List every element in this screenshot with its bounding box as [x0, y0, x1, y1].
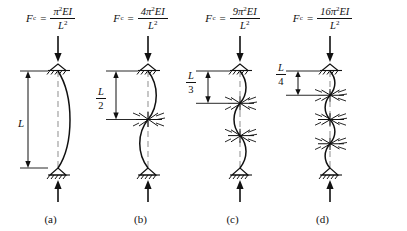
intermediate-brace-c-2 — [225, 129, 257, 143]
intermediate-brace-d-3 — [315, 138, 347, 151]
dimension-denominator-b: 2 — [96, 99, 105, 111]
ei-term-b: EI — [155, 6, 165, 17]
length-exponent-b: 2 — [154, 19, 158, 27]
reaction-arrow-bottom-a — [54, 180, 61, 202]
formula-fraction-d: 16π2EI L2 — [317, 6, 352, 31]
load-arrow-top-a — [54, 36, 61, 62]
formula-numerator-c: 9π2EI — [230, 6, 260, 18]
reaction-arrow-bottom-d — [326, 180, 333, 202]
coefficient-d: 16 — [320, 6, 331, 17]
dimension-numerator-c: L — [186, 70, 196, 82]
force-subscript-b: c — [120, 15, 123, 22]
dimension-denominator-d: 4 — [276, 75, 285, 87]
dimension-line-d — [286, 71, 320, 95]
formula-denominator-c: L2 — [237, 19, 252, 31]
length-exponent-d: 2 — [336, 19, 340, 27]
reaction-arrow-bottom-b — [144, 180, 151, 202]
dimension-numerator-b: L — [96, 86, 106, 98]
dimension-label-a: L — [18, 118, 24, 129]
panel-caption-c: (c) — [182, 213, 283, 225]
column-diagram-a — [0, 34, 101, 206]
panel-caption-b: (b) — [90, 213, 191, 225]
dimension-value-a: L — [18, 117, 24, 129]
dimension-label-b: L 2 — [96, 86, 106, 111]
formula-denominator-a: L2 — [55, 19, 70, 31]
formula-numerator-a: π2EI — [50, 6, 75, 18]
length-exponent-a: 2 — [64, 19, 68, 27]
intermediate-brace-c-1 — [225, 97, 257, 111]
reaction-arrow-bottom-c — [236, 180, 243, 202]
pin-support-bottom-c — [229, 168, 252, 179]
formula-fraction-b: 4π2EI L2 — [138, 6, 168, 31]
force-subscript-d: c — [300, 15, 303, 22]
formula-denominator-b: L2 — [145, 19, 160, 31]
intermediate-brace-d-2 — [315, 113, 347, 126]
force-symbol-b: F — [113, 13, 120, 24]
pin-support-bottom-d — [319, 168, 342, 179]
formula-fraction-c: 9π2EI L2 — [230, 6, 260, 31]
dimension-line-b — [106, 71, 138, 120]
dimension-fraction-d: L 4 — [276, 62, 286, 87]
ei-term-c: EI — [247, 6, 257, 17]
panel-caption-a: (a) — [0, 213, 101, 225]
intermediate-brace-b-1 — [133, 112, 165, 127]
dimension-label-d: L 4 — [276, 62, 286, 87]
ei-term-d: EI — [339, 6, 349, 17]
force-symbol-a: F — [26, 13, 33, 24]
pin-support-bottom-b — [137, 168, 160, 179]
formula-numerator-d: 16π2EI — [317, 6, 352, 18]
equals-sign-c: = — [220, 13, 226, 24]
column-panel-d: Fc = 16π2EI L2 — [272, 0, 373, 231]
column-panel-b: Fc = 4π2EI L2 — [90, 0, 191, 231]
load-arrow-top-d — [326, 36, 333, 62]
equals-sign-b: = — [128, 13, 134, 24]
pin-support-bottom-a — [47, 168, 70, 179]
formula-fraction-a: π2EI L2 — [50, 6, 75, 31]
length-exponent-c: 2 — [246, 19, 250, 27]
dimension-fraction-b: L 2 — [96, 86, 106, 111]
buckled-shape-a — [58, 71, 70, 168]
force-symbol-d: F — [293, 13, 300, 24]
formula-denominator-d: L2 — [327, 19, 342, 31]
load-arrow-top-c — [236, 36, 243, 62]
panel-caption-d: (d) — [272, 213, 373, 225]
equals-sign-d: = — [307, 13, 313, 24]
column-diagram-c — [182, 34, 283, 206]
dimension-line-c — [196, 71, 230, 103]
force-subscript-a: c — [33, 15, 36, 22]
ei-term-a: EI — [62, 6, 72, 17]
dimension-numerator-d: L — [276, 62, 286, 74]
column-panel-a: Fc = π2EI L2 — [0, 0, 101, 231]
column-panel-c: Fc = 9π2EI L2 — [182, 0, 283, 231]
load-arrow-top-b — [144, 36, 151, 62]
force-subscript-c: c — [212, 15, 215, 22]
euler-buckling-figure: Fc = π2EI L2 — [0, 0, 407, 231]
dimension-fraction-c: L 3 — [186, 70, 196, 95]
intermediate-brace-d-1 — [315, 89, 347, 102]
equals-sign-a: = — [40, 13, 46, 24]
dimension-denominator-c: 3 — [186, 83, 195, 95]
force-symbol-c: F — [205, 13, 212, 24]
formula-numerator-b: 4π2EI — [138, 6, 168, 18]
column-diagram-d — [272, 34, 373, 206]
dimension-label-c: L 3 — [186, 70, 196, 95]
dimension-line-a — [20, 71, 48, 168]
column-diagram-b — [90, 34, 191, 206]
